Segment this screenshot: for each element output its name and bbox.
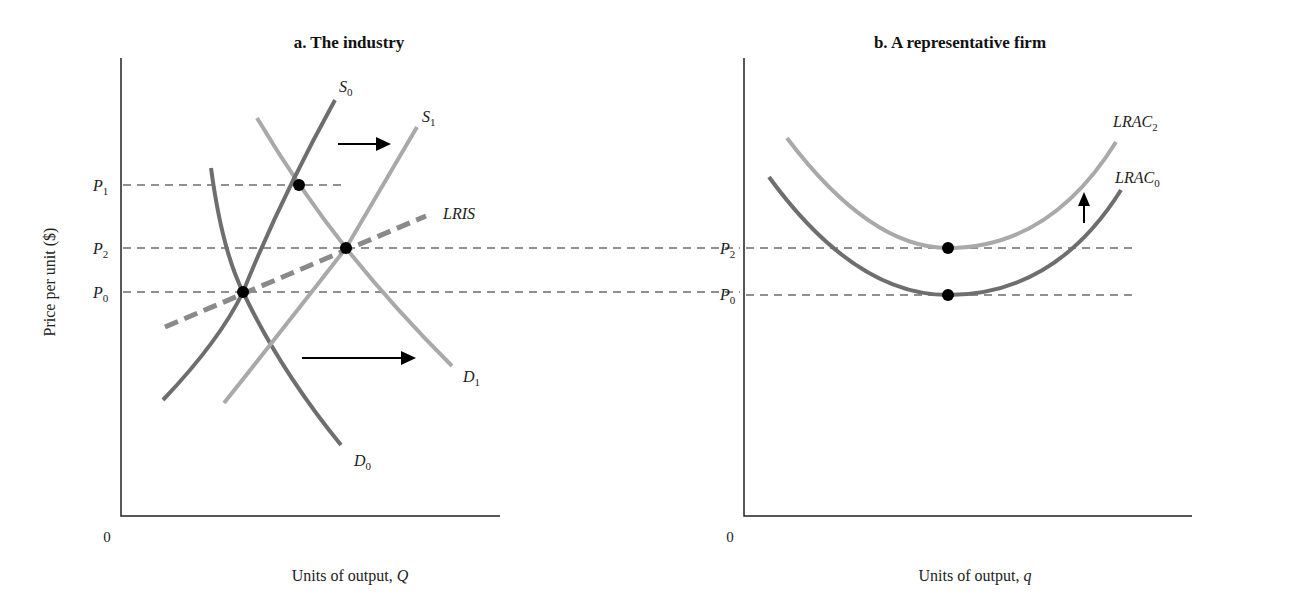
y-axis-label: Price per unit ($) bbox=[41, 228, 59, 337]
panel-a-axes bbox=[121, 58, 500, 516]
panel-industry: a. The industry 0 Price per unit ($) Uni… bbox=[41, 33, 740, 585]
lrac2-minimum-point bbox=[942, 242, 954, 254]
demand-shift-arrow-icon bbox=[302, 351, 416, 365]
lris-label: LRIS bbox=[442, 205, 475, 222]
d1-label: D1 bbox=[462, 368, 480, 388]
panel-a-title: a. The industry bbox=[294, 33, 405, 52]
panel-b-p0-label: P0 bbox=[719, 286, 736, 306]
s1-label: S1 bbox=[422, 108, 436, 128]
panel-b-p2-label: P2 bbox=[719, 240, 735, 260]
lrac0-minimum-point bbox=[942, 289, 954, 301]
panel-representative-firm: b. A representative firm 0 Units of outp… bbox=[719, 33, 1192, 585]
panel-b-origin: 0 bbox=[726, 529, 734, 545]
p0-label: P0 bbox=[92, 284, 109, 304]
lrac2-curve bbox=[787, 138, 1116, 248]
d0-label: D0 bbox=[353, 452, 372, 472]
equilibrium-point-p0 bbox=[237, 286, 249, 298]
panel-b-title: b. A representative firm bbox=[874, 33, 1046, 52]
demand-curve-d0 bbox=[211, 168, 341, 445]
s0-label: S0 bbox=[339, 78, 353, 98]
p1-label: P1 bbox=[92, 177, 108, 197]
equilibrium-point-short-run bbox=[293, 179, 305, 191]
lrac0-curve bbox=[769, 177, 1121, 295]
lrac0-label: LRAC0 bbox=[1114, 169, 1160, 189]
panel-a-origin: 0 bbox=[103, 529, 111, 545]
p2-label: P2 bbox=[92, 240, 108, 260]
diagram-canvas: a. The industry 0 Price per unit ($) Uni… bbox=[0, 0, 1306, 616]
equilibrium-point-p2 bbox=[340, 242, 352, 254]
lrac2-label: LRAC2 bbox=[1112, 113, 1158, 133]
demand-curve-d1 bbox=[257, 118, 452, 366]
panel-a-x-axis-label: Units of output, Q bbox=[292, 567, 409, 585]
cost-shift-up-arrow-icon bbox=[1078, 192, 1090, 223]
panel-b-x-axis-label: Units of output, q bbox=[919, 567, 1032, 585]
supply-shift-arrow-icon bbox=[338, 137, 391, 151]
supply-curve-s0 bbox=[163, 100, 335, 400]
